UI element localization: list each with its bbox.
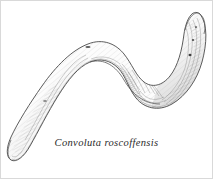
figure-caption: Convoluta roscoffensis (0, 136, 213, 149)
worm-body (0, 0, 213, 179)
eyespot-icon (192, 39, 194, 41)
posterior-pigment-spot-icon (43, 100, 47, 102)
statocyst-icon (189, 54, 192, 56)
eyespot-icon (195, 26, 197, 28)
worm-illustration (0, 0, 213, 179)
figure-container: Convoluta roscoffensis (0, 0, 213, 179)
dorsal-pigment-spot-icon (85, 46, 90, 48)
